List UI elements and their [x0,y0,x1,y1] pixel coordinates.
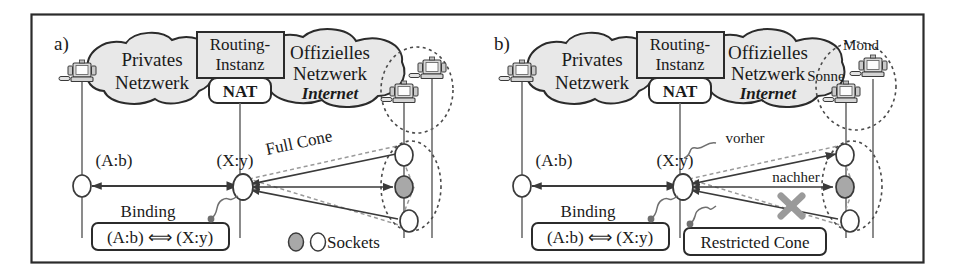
socket-open-a-1 [395,144,413,166]
private-network-label-b-2: Netzwerk [555,72,629,93]
internal-port-label-a: (A:b) [96,151,133,170]
socket-nat-a [233,174,253,200]
internal-port-label-b: (A:b) [536,151,573,170]
panel-tag-a: a) [54,33,69,55]
binding-caption-b: Binding [561,202,616,221]
host-label-mond: Mond [843,37,879,53]
official-network-label-b: Offizielles [728,42,808,63]
legend-socket-open [311,233,326,251]
binding-connector-dot-a [208,216,215,223]
external-port-label-b: (X:y) [657,151,694,170]
vorher-label-b: vorher [725,130,764,146]
routing-instance-label-b: Routing- [650,35,711,54]
binding-connector-dot-b [648,216,655,223]
internet-label-b: Internet [739,84,798,103]
socket-filled-a [395,176,413,198]
internet-label-a: Internet [301,84,360,103]
external-port-label-a: (X:y) [217,151,254,170]
socket-open-b-1 [836,144,854,166]
official-network-label-a-2: Netzwerk [293,63,367,84]
socket-nat-b [673,174,693,200]
socket-filled-b [836,176,854,198]
official-network-label-a: Offizielles [290,42,370,63]
routing-instance-label-b-2: Instanz [655,55,705,74]
nachher-label-b: nachher [772,169,819,185]
private-network-label-b: Privates [561,49,622,70]
official-network-label-b-2: Netzwerk [731,63,805,84]
routing-instance-label-a: Routing- [210,35,271,54]
host-label-sonne: Sonne [807,68,845,84]
binding-value-b: (A:b) ⟺ (X:y) [547,228,653,247]
nat-label-a: NAT [223,82,258,101]
restricted-cone-connector-dot-b [687,221,694,228]
socket-internal-b [513,175,531,197]
panel-tag-b: b) [494,33,510,55]
socket-internal-a [73,175,91,197]
private-network-label-a: Privates [121,49,182,70]
binding-value-a: (A:b) ⟺ (X:y) [107,228,213,247]
legend-socket-filled [289,233,304,251]
nat-comparison-figure: Privates Netzwerk Offizielles Netzwerk I… [0,0,955,277]
private-network-label-a-2: Netzwerk [115,72,189,93]
socket-open-b-2 [841,210,859,232]
restricted-cone-label-b: Restricted Cone [700,233,809,252]
routing-instance-label-a-2: Instanz [215,55,265,74]
nat-label-b: NAT [663,82,698,101]
binding-caption-a: Binding [121,202,176,221]
socket-open-a-2 [400,210,418,232]
legend-sockets-label: Sockets [327,233,380,252]
